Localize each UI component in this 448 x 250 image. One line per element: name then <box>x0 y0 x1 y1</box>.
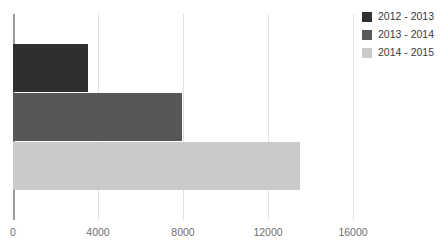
gridline-16000 <box>353 14 354 220</box>
x-tick-label-2: 8000 <box>171 226 194 238</box>
x-axis-ticks: 0 4000 8000 12000 16000 <box>0 226 448 244</box>
legend-item-label: 2013 - 2014 <box>378 29 434 40</box>
legend-swatch-icon <box>362 12 372 22</box>
legend-item-label: 2012 - 2013 <box>378 11 434 22</box>
legend-item-2013-2014[interactable]: 2013 - 2014 <box>362 28 434 41</box>
legend-item-2012-2013[interactable]: 2012 - 2013 <box>362 10 434 23</box>
x-tick-label-4: 16000 <box>338 226 367 238</box>
bar-2013-2014[interactable] <box>13 93 182 141</box>
x-tick-label-1: 4000 <box>86 226 109 238</box>
legend-item-2014-2015[interactable]: 2014 - 2015 <box>362 46 434 59</box>
bar-group <box>13 44 353 190</box>
bar-chart: 0 4000 8000 12000 16000 2012 - 2013 2013… <box>0 0 448 250</box>
legend-swatch-icon <box>362 30 372 40</box>
legend: 2012 - 2013 2013 - 2014 2014 - 2015 <box>362 10 434 59</box>
x-tick-label-3: 12000 <box>253 226 282 238</box>
legend-item-label: 2014 - 2015 <box>378 47 434 58</box>
x-tick-label-0: 0 <box>10 226 16 238</box>
bar-2012-2013[interactable] <box>13 44 88 92</box>
bar-2014-2015[interactable] <box>13 142 300 190</box>
legend-swatch-icon <box>362 48 372 58</box>
